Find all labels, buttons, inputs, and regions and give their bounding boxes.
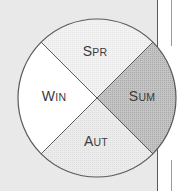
- label-spring: SPR: [83, 42, 108, 60]
- label-winter: WIN: [42, 87, 66, 105]
- label-autumn: AUT: [84, 132, 108, 150]
- label-summer: SUM: [129, 87, 155, 105]
